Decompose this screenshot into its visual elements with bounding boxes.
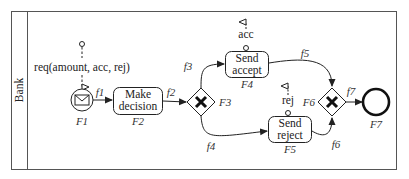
- data-input-label: req(amount, acc, rej): [34, 61, 130, 74]
- svg-text:f4: f4: [207, 140, 216, 152]
- svg-text:f6: f6: [332, 138, 341, 150]
- data-output-acc: acc: [238, 22, 253, 51]
- svg-text:acc: acc: [238, 28, 253, 40]
- svg-text:f7: f7: [347, 85, 356, 97]
- start-event-f1[interactable]: F1: [71, 89, 93, 127]
- gateway-f6[interactable]: F6: [302, 88, 346, 116]
- bpmn-diagram: Bank req(amount, acc, rej) F1 f1 Make de…: [0, 0, 409, 179]
- data-source-circle-icon: [286, 111, 291, 116]
- gateway-f3[interactable]: F3: [187, 88, 232, 116]
- svg-text:Send: Send: [279, 117, 302, 129]
- flow-f3: f3: [184, 60, 224, 88]
- flow-f6: f6: [312, 118, 341, 150]
- data-source-circle-icon: [244, 46, 249, 51]
- data-source-circle-icon: [80, 42, 85, 47]
- task-send-accept[interactable]: Send accept F4: [226, 52, 269, 91]
- svg-text:f2: f2: [167, 86, 176, 98]
- svg-text:f3: f3: [184, 60, 193, 72]
- node-label-f3: F3: [218, 96, 232, 108]
- node-label-f6: F6: [302, 96, 316, 108]
- svg-text:Make: Make: [125, 88, 151, 100]
- flow-f2: f2: [163, 86, 186, 102]
- end-event-f7[interactable]: F7: [363, 89, 389, 130]
- flow-f5: f5: [269, 47, 332, 86]
- svg-text:f1: f1: [96, 86, 105, 98]
- data-input-req: req(amount, acc, rej): [34, 42, 130, 88]
- flow-f1: f1: [93, 86, 112, 100]
- data-output-rej: rej: [282, 86, 294, 116]
- task-send-reject[interactable]: Send reject F5: [269, 117, 312, 156]
- flow-f4: f4: [201, 116, 267, 152]
- svg-text:Send: Send: [236, 52, 259, 64]
- svg-text:rej: rej: [282, 94, 294, 107]
- envelope-icon: [75, 95, 89, 105]
- svg-text:reject: reject: [277, 129, 303, 142]
- node-label-f7: F7: [369, 118, 383, 130]
- svg-text:f5: f5: [301, 47, 310, 59]
- svg-text:accept: accept: [232, 64, 262, 77]
- node-label-f2: F2: [131, 115, 145, 127]
- task-make-decision[interactable]: Make decision F2: [114, 88, 163, 128]
- node-label-f4: F4: [240, 78, 254, 90]
- node-label-f5: F5: [283, 143, 297, 155]
- svg-text:decision: decision: [119, 100, 158, 112]
- node-label-f1: F1: [75, 115, 88, 127]
- lane-label: Bank: [13, 78, 25, 103]
- flow-f7: f7: [346, 85, 362, 102]
